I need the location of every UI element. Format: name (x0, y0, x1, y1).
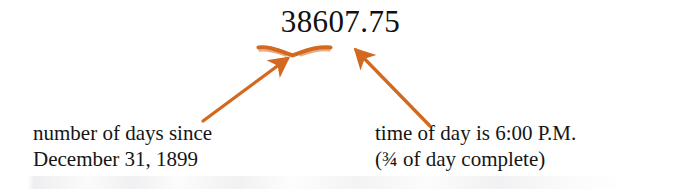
caption-time-of-day: time of day is 6:00 P.M. (¾ of day compl… (375, 120, 576, 172)
caption-days-since-line2: December 31, 1899 (33, 146, 212, 172)
caption-days-since-line1: number of days since (33, 121, 212, 145)
caption-days-since: number of days since December 31, 1899 (33, 120, 212, 172)
arrow-to-integer-part (203, 59, 288, 122)
serial-date-annotation-figure: 38607.75 number of days since December 3… (0, 0, 681, 195)
underbrace-integer-part (259, 47, 331, 55)
caption-time-of-day-line2: (¾ of day complete) (375, 146, 576, 172)
scan-bleed-artifact (28, 176, 628, 189)
arrow-to-fraction-part (356, 50, 430, 126)
caption-time-of-day-line1: time of day is 6:00 P.M. (375, 121, 576, 145)
serial-date-value: 38607.75 (0, 4, 681, 40)
